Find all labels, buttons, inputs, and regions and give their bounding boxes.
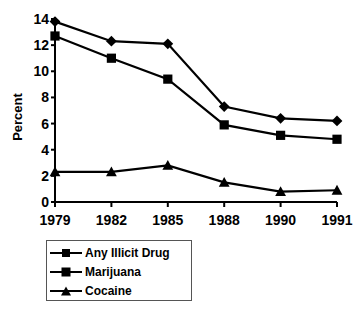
legend-item-marijuana: Marijuana (47, 262, 191, 282)
series-cocaine (50, 160, 343, 196)
y-tick-label: 10 (23, 64, 49, 78)
legend-label: Marijuana (85, 266, 141, 278)
chart-container: Percent 02468101214 19791982198519881990… (0, 0, 353, 311)
legend-marker-triangle-icon (47, 282, 85, 300)
x-tick-label: 1988 (199, 213, 249, 227)
y-tick-label: 8 (23, 90, 49, 104)
x-tick-label: 1990 (256, 213, 306, 227)
legend-marker-diamond-icon (47, 244, 85, 262)
y-tick-label: 2 (23, 169, 49, 183)
data-point-marker (163, 75, 172, 84)
data-point-marker (50, 16, 61, 27)
y-tick-label: 6 (23, 117, 49, 131)
legend-item-cocaine: Cocaine (47, 281, 191, 301)
series-any-illicit-drug (50, 16, 343, 126)
legend-item-any-illicit-drug: Any Illicit Drug (47, 243, 191, 263)
x-tick-label: 1991 (312, 213, 353, 227)
x-tick-label: 1982 (86, 213, 136, 227)
x-tick-label: 1979 (30, 213, 80, 227)
data-point-marker (50, 31, 59, 40)
data-point-marker (332, 135, 341, 144)
data-point-marker (275, 113, 286, 124)
y-tick-label: 4 (23, 143, 49, 157)
data-point-marker (107, 54, 116, 63)
series-marijuana (50, 31, 341, 143)
y-tick-label: 12 (23, 38, 49, 52)
data-point-marker (332, 116, 343, 127)
legend-marker-square-icon (47, 263, 85, 281)
y-tick-label: 14 (23, 12, 49, 26)
legend-label: Cocaine (85, 285, 132, 297)
legend-label: Any Illicit Drug (85, 247, 170, 259)
x-tick-label: 1985 (143, 213, 193, 227)
y-tick-label: 0 (23, 195, 49, 209)
data-point-marker (220, 120, 229, 129)
data-point-marker (276, 131, 285, 140)
data-point-marker (106, 36, 117, 47)
legend: Any Illicit Drug Marijuana Cocaine (46, 240, 192, 301)
